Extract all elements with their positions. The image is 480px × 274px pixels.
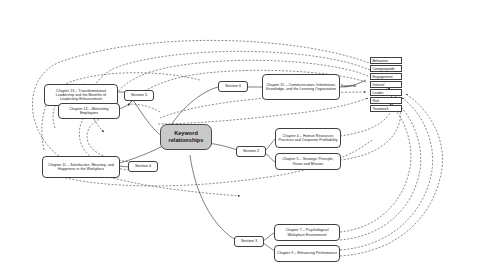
keyword-engagement[interactable]: Engagement	[370, 73, 402, 80]
keyword-teamwork[interactable]: Teamwork	[370, 105, 402, 112]
node-chapter-11-label: Chapter 11 – Satisfaction, Meaning, and …	[45, 163, 117, 171]
edge-dashed-bottom-right-4	[340, 94, 443, 256]
node-chapter-5-label: Chapter 5 – Strategic Principle, Vision …	[278, 157, 338, 165]
node-section-4-label: Section 4	[131, 164, 155, 169]
edge-section2-chapter4	[265, 139, 275, 151]
node-chapter-7-label: Chapter 7 – Psychological Workplace Envi…	[277, 228, 337, 236]
keyword-teamwork-label: Teamwork	[373, 107, 389, 111]
edge-section2-chapter5	[265, 153, 275, 162]
node-section-6[interactable]: Section 6	[218, 81, 248, 92]
node-chapter-15-label: Chapter 15 – Communication, Information,…	[265, 83, 337, 91]
node-center-keyword-relationships[interactable]: Keyword relationships	[160, 124, 212, 150]
node-section-3[interactable]: Section 3	[234, 236, 264, 247]
keywords-label: Keywords	[341, 84, 356, 88]
node-section-5[interactable]: Section 5	[124, 90, 154, 101]
node-section-3-label: Section 3	[237, 239, 261, 244]
edge-dashed-bottom-right-2	[340, 102, 421, 240]
node-chapter-9-label: Chapter 9 – Enhancing Performance	[277, 251, 337, 255]
edge-dashed-bottom-right-1	[340, 104, 411, 232]
node-chapter-15[interactable]: Chapter 15 – Communication, Information,…	[262, 74, 340, 100]
keyword-internal[interactable]: Internal	[370, 81, 402, 88]
edge-dashed-center-right-2	[158, 98, 368, 124]
keyword-companywide-label: Companywide	[373, 67, 395, 71]
edge-center-section5	[133, 100, 163, 137]
center-label-line2: relationships	[169, 137, 204, 144]
node-chapter-4-label: Chapter 4 – Human Resources Practices an…	[278, 134, 338, 142]
node-chapter-9[interactable]: Chapter 9 – Enhancing Performance	[274, 245, 340, 262]
keyword-leader[interactable]: Leader	[370, 89, 402, 96]
node-chapter-14-label: Chapter 14 – Motivating Employees	[61, 107, 117, 115]
keyword-behaviour[interactable]: Behaviour	[370, 57, 402, 64]
keyword-risk[interactable]: Risk	[370, 97, 402, 104]
node-section-2[interactable]: Section 2	[236, 146, 266, 157]
keyword-leader-label: Leader	[373, 91, 384, 95]
edge-center-section6	[170, 87, 218, 127]
edge-layer	[0, 0, 480, 274]
node-chapter-4[interactable]: Chapter 4 – Human Resources Practices an…	[275, 128, 341, 148]
node-section-4[interactable]: Section 4	[128, 161, 158, 172]
node-chapter-11[interactable]: Chapter 11 – Satisfaction, Meaning, and …	[42, 156, 120, 178]
keyword-internal-label: Internal	[373, 83, 385, 87]
keyword-companywide[interactable]: Companywide	[370, 65, 402, 72]
edge-section3-chapter7	[263, 233, 274, 241]
node-chapter-7[interactable]: Chapter 7 – Psychological Workplace Envi…	[274, 224, 340, 241]
node-section-2-label: Section 2	[239, 149, 263, 154]
edge-dashed-left-ch14	[87, 114, 132, 162]
center-label-line1: Keyword	[174, 130, 198, 137]
diagram-canvas: Chapter 13 – Transformational Leadership…	[0, 0, 480, 274]
edge-center-section3	[190, 155, 238, 241]
node-section-5-label: Section 5	[127, 93, 151, 98]
edge-section5-chapter14	[118, 100, 133, 109]
node-chapter-14[interactable]: Chapter 14 – Motivating Employees	[58, 103, 120, 119]
node-section-6-label: Section 6	[221, 84, 245, 89]
edge-dashed-bottom-right-3	[340, 98, 433, 250]
node-chapter-13-label: Chapter 13 – Transformational Leadership…	[47, 89, 115, 102]
keyword-engagement-label: Engagement	[373, 75, 393, 79]
keyword-behaviour-label: Behaviour	[373, 59, 389, 63]
keyword-risk-label: Risk	[373, 99, 380, 103]
node-chapter-5[interactable]: Chapter 5 – Strategic Principle, Vision …	[275, 153, 341, 170]
edge-dashed-center-left-1	[128, 104, 160, 112]
